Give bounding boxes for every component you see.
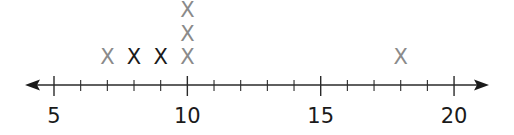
number-line [25, 80, 489, 91]
tick-label: 5 [47, 104, 60, 128]
x-mark: X [180, 22, 194, 46]
tick-label: 15 [307, 104, 334, 128]
x-mark: X [153, 45, 167, 69]
x-mark: X [127, 45, 141, 69]
x-mark: X [180, 0, 194, 22]
x-mark: X [100, 45, 114, 69]
tick-label: 20 [441, 104, 468, 128]
ticks [54, 76, 454, 96]
line-plot: 5101520 XXXXXXX [0, 0, 514, 135]
tick-label: 10 [174, 104, 201, 128]
tick-labels: 5101520 [47, 104, 467, 128]
x-mark: X [394, 45, 408, 69]
x-mark: X [180, 45, 194, 69]
data-marks: XXXXXXX [100, 0, 408, 69]
